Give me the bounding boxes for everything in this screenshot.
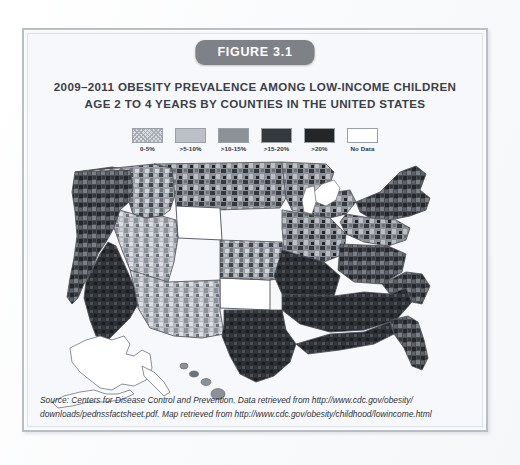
legend-swatch-10-15 xyxy=(218,128,249,143)
region-northern-plains xyxy=(154,162,286,210)
source-line-1: Source: Centers for Disease Control and … xyxy=(40,394,466,408)
figure-number-badge: FIGURE 3.1 xyxy=(195,40,314,65)
region-mid-atlantic xyxy=(340,214,410,246)
hawaii-island-oahu xyxy=(190,371,199,377)
legend-swatch-5-10 xyxy=(175,128,206,143)
state-alaska-no-data xyxy=(70,336,152,390)
legend-label-0-5: 0-5% xyxy=(131,145,164,152)
map-svg xyxy=(34,158,480,416)
figure-title-line-1: 2009–2011 OBESITY PREVALENCE AMONG LOW-I… xyxy=(24,78,486,95)
legend-label-5-10: >5-10% xyxy=(174,145,207,152)
legend-item-0-5: 0-5% xyxy=(131,128,164,152)
legend-label-over-20: >20% xyxy=(303,145,336,152)
source-caption: Source: Centers for Disease Control and … xyxy=(40,394,466,421)
figure-frame: FIGURE 3.1 2009–2011 OBESITY PREVALENCE … xyxy=(22,28,488,432)
legend-swatch-0-5 xyxy=(132,128,163,143)
figure-title-line-2: AGE 2 TO 4 YEARS BY COUNTIES IN THE UNIT… xyxy=(24,95,486,112)
legend-label-no-data: No Data xyxy=(346,145,379,152)
legend-label-10-15: >10-15% xyxy=(217,145,250,152)
hawaii-island-kauai xyxy=(180,363,188,369)
page-background: FIGURE 3.1 2009–2011 OBESITY PREVALENCE … xyxy=(0,0,520,465)
legend-label-15-20: >15-20% xyxy=(260,145,293,152)
state-florida xyxy=(390,316,428,370)
legend-item-5-10: >5-10% xyxy=(174,128,207,152)
legend-item-over-20: >20% xyxy=(303,128,336,152)
region-southwest xyxy=(130,270,224,338)
legend-item-10-15: >10-15% xyxy=(217,128,250,152)
alaska-panhandle xyxy=(142,366,170,396)
hawaii-island-maui xyxy=(201,379,211,386)
us-county-choropleth-map xyxy=(34,158,480,416)
state-wyoming-no-data xyxy=(176,206,222,240)
region-northeast xyxy=(356,166,430,220)
source-line-2: downloads/pednssfactsheet.pdf. Map retri… xyxy=(40,408,466,422)
legend-item-15-20: >15-20% xyxy=(260,128,293,152)
state-texas xyxy=(222,310,296,382)
figure-title: 2009–2011 OBESITY PREVALENCE AMONG LOW-I… xyxy=(24,78,486,112)
legend-swatch-no-data xyxy=(347,128,378,143)
map-legend: 0-5% >5-10% >10-15% >15-20% >20% No Data xyxy=(24,128,486,152)
legend-swatch-15-20 xyxy=(261,128,292,143)
state-colorado-no-data xyxy=(220,278,270,310)
legend-item-no-data: No Data xyxy=(346,128,379,152)
legend-swatch-over-20 xyxy=(304,128,335,143)
